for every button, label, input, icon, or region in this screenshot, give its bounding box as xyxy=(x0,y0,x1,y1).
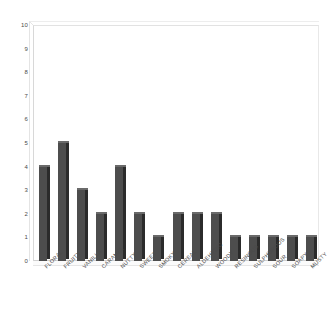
y-tick-label: 4 xyxy=(24,164,28,170)
bar-top-face xyxy=(115,165,126,167)
y-tick-label: 3 xyxy=(24,187,28,193)
bar[interactable] xyxy=(306,25,314,261)
bar[interactable] xyxy=(115,25,123,261)
bar-side-face xyxy=(161,235,164,259)
bar-side-face xyxy=(85,188,88,259)
y-tick-label: 10 xyxy=(21,22,28,28)
bar[interactable] xyxy=(268,25,276,261)
y-tick-label: 9 xyxy=(24,46,28,52)
bar-side-face xyxy=(200,212,203,259)
bar-top-face xyxy=(268,235,279,237)
bar[interactable] xyxy=(96,25,104,261)
bar[interactable] xyxy=(192,25,200,261)
bar-side-face xyxy=(238,235,241,259)
bar[interactable] xyxy=(77,25,85,261)
bar-top-face xyxy=(230,235,241,237)
bar-side-face xyxy=(181,212,184,259)
bar-face xyxy=(39,167,47,261)
bar[interactable] xyxy=(287,25,295,261)
bar-top-face xyxy=(249,235,260,237)
bar-side-face xyxy=(219,212,222,259)
bar-top-face xyxy=(287,235,298,237)
bar[interactable] xyxy=(58,25,66,261)
bar-face xyxy=(58,143,66,261)
bar-top-face xyxy=(153,235,164,237)
bar-top-face xyxy=(39,165,50,167)
bar[interactable] xyxy=(153,25,161,261)
bar-side-face xyxy=(123,165,126,259)
bar-side-face xyxy=(66,141,69,259)
bar-chart: 012345678910 FLORALFRUITYVANILLACARAMELN… xyxy=(0,0,328,324)
bars-layer xyxy=(33,25,319,261)
bar[interactable] xyxy=(39,25,47,261)
bar-top-face xyxy=(96,212,107,214)
bar-side-face xyxy=(295,235,298,259)
bar-top-face xyxy=(306,235,317,237)
bar-side-face xyxy=(104,212,107,259)
y-tick-label: 1 xyxy=(24,234,28,240)
y-tick-label: 7 xyxy=(24,93,28,99)
y-tick-label: 5 xyxy=(24,140,28,146)
bar-side-face xyxy=(142,212,145,259)
bar[interactable] xyxy=(211,25,219,261)
bar[interactable] xyxy=(134,25,142,261)
bar-top-face xyxy=(192,212,203,214)
bar-top-face xyxy=(173,212,184,214)
y-tick-label: 6 xyxy=(24,116,28,122)
bar-top-face xyxy=(77,188,88,190)
bar[interactable] xyxy=(230,25,238,261)
bar-side-face xyxy=(47,165,50,259)
bar[interactable] xyxy=(249,25,257,261)
y-tick-label: 0 xyxy=(24,258,28,264)
y-tick-label: 2 xyxy=(24,211,28,217)
bar-top-face xyxy=(211,212,222,214)
bar-top-face xyxy=(134,212,145,214)
bar-side-face xyxy=(314,235,317,259)
y-tick-label: 8 xyxy=(24,69,28,75)
bar[interactable] xyxy=(173,25,181,261)
bar-top-face xyxy=(58,141,69,143)
x-axis: FLORALFRUITYVANILLACARAMELNUTTYSWEETSMOK… xyxy=(33,266,319,324)
